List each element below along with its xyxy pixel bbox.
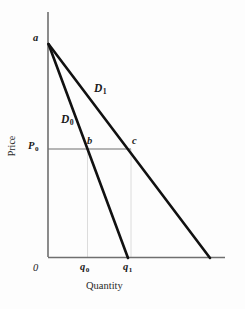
point-label-a: a	[33, 33, 38, 44]
curve-label-d0-subscript: 0	[69, 118, 73, 127]
origin-label: 0	[33, 263, 38, 274]
y-tick-label-p0-subscript: 0	[34, 145, 38, 153]
y-axis-title: Price	[7, 126, 17, 166]
demand-curve-d0	[49, 44, 129, 258]
point-label-c: c	[132, 136, 137, 147]
y-tick-label-p0: P0	[28, 141, 38, 153]
x-tick-label-q0-subscript: 0	[85, 266, 89, 274]
x-tick-label-q0: q0	[80, 262, 89, 274]
demand-curve-figure: a b c D1 D0 P0 0 q0 q1 Price Quantity	[0, 0, 245, 309]
curve-label-d0: D0	[61, 114, 74, 127]
x-tick-label-q1: q1	[123, 262, 132, 274]
curve-label-d1: D1	[94, 83, 107, 96]
x-axis-title: Quantity	[86, 281, 123, 292]
point-label-b: b	[87, 136, 92, 147]
curve-label-d1-subscript: 1	[102, 87, 106, 96]
x-tick-label-q1-subscript: 1	[128, 266, 132, 274]
demand-curve-d1	[49, 44, 211, 258]
